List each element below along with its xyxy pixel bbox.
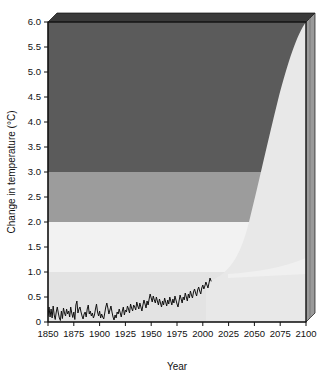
- x-tick-label: 2025: [218, 328, 239, 339]
- y-tick-label: 4.5: [28, 91, 41, 102]
- y-tick-label: 1.5: [28, 241, 41, 252]
- y-tick-label: 4.0: [28, 116, 41, 127]
- y-tick-label: 3.0: [28, 166, 41, 177]
- x-tick-label: 2050: [244, 328, 265, 339]
- x-tick-label: 1950: [141, 328, 162, 339]
- y-tick-label: 3.5: [28, 141, 41, 152]
- y-tick-label: 0.5: [28, 291, 41, 302]
- x-axis-title: Year: [167, 361, 188, 372]
- y-axis-title: Change in temperature (°C): [6, 111, 17, 234]
- y-tick-label: 2.5: [28, 191, 41, 202]
- y-tick-label: 5.0: [28, 66, 41, 77]
- x-axis-ticks: 1850187519001925195019752000202520502075…: [37, 322, 316, 339]
- x-tick-label: 2000: [192, 328, 213, 339]
- x-tick-label: 1925: [115, 328, 136, 339]
- x-tick-label: 2075: [270, 328, 291, 339]
- y-axis-ticks: 00.51.01.52.02.53.03.54.04.55.05.56.0: [28, 16, 48, 327]
- climate-projection-chart: 00.51.01.52.02.53.03.54.04.55.05.56.0 18…: [0, 0, 333, 380]
- block-right-face: [306, 13, 315, 322]
- y-tick-label: 5.5: [28, 41, 41, 52]
- x-tick-label: 1875: [63, 328, 84, 339]
- y-tick-label: 1.0: [28, 266, 41, 277]
- x-tick-label: 1850: [37, 328, 58, 339]
- y-tick-label: 0: [36, 316, 41, 327]
- chart-canvas: 00.51.01.52.02.53.03.54.04.55.05.56.0 18…: [0, 0, 333, 380]
- x-tick-label: 1975: [166, 328, 187, 339]
- x-tick-label: 2100: [295, 328, 316, 339]
- y-tick-label: 6.0: [28, 16, 41, 27]
- block-top-face: [48, 13, 315, 22]
- y-tick-label: 2.0: [28, 216, 41, 227]
- x-tick-label: 1900: [89, 328, 110, 339]
